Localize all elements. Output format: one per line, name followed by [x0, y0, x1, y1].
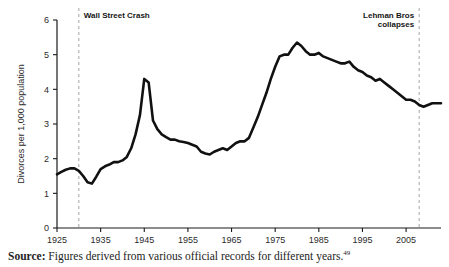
source-note: Source: Figures derived from various off…	[8, 246, 445, 263]
axes	[57, 20, 441, 228]
x-axis-ticks: 192519351945195519651975198519952005	[47, 228, 416, 243]
x-tick-label: 2005	[396, 235, 416, 243]
divorce-rate-figure: 0123456 19251935194519551965197519851995…	[0, 0, 449, 267]
y-tick-label: 3	[44, 119, 49, 129]
y-tick-label: 2	[44, 154, 49, 164]
y-tick-label: 5	[44, 50, 49, 60]
x-tick-label: 1945	[134, 235, 154, 243]
footnote-marker: 49	[343, 249, 350, 257]
chart-canvas: 0123456 19251935194519551965197519851995…	[0, 0, 449, 243]
y-tick-label: 0	[44, 223, 49, 233]
x-tick-label: 1995	[352, 235, 372, 243]
event-annotation-labels: Wall Street CrashLehman Broscollapses	[84, 11, 415, 29]
source-label: Source:	[8, 250, 45, 262]
event-label-line: Lehman Bros	[363, 11, 415, 20]
x-tick-label: 1925	[47, 235, 67, 243]
event-label-line: collapses	[378, 20, 415, 29]
x-tick-label: 1955	[178, 235, 198, 243]
event-label-line: Wall Street Crash	[84, 11, 150, 20]
y-axis-title: Divorces per 1,000 population	[16, 64, 26, 184]
event-marker-lines	[79, 8, 419, 228]
y-tick-label: 1	[44, 189, 49, 199]
y-axis-ticks: 0123456	[44, 15, 57, 233]
x-tick-label: 1985	[309, 235, 329, 243]
x-tick-label: 1935	[91, 235, 111, 243]
divorce-rate-series	[57, 43, 441, 184]
source-text: Figures derived from various official re…	[45, 250, 343, 262]
x-tick-label: 1965	[222, 235, 242, 243]
y-tick-label: 4	[44, 85, 49, 95]
x-tick-label: 1975	[265, 235, 285, 243]
y-tick-label: 6	[44, 15, 49, 25]
